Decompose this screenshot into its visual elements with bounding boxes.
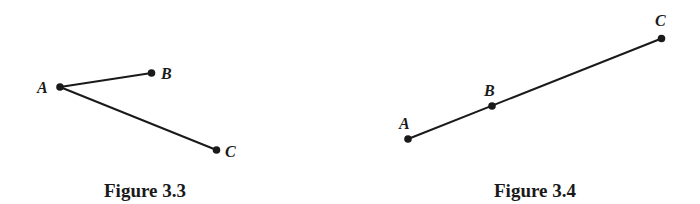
point-C (213, 146, 221, 154)
figure-caption: Figure 3.4 (494, 180, 576, 201)
figure-3-3: A B C Figure 3.3 (36, 65, 236, 201)
label-C: C (225, 143, 236, 160)
label-B: B (160, 65, 172, 82)
point-B (148, 69, 156, 77)
segment-AB (60, 73, 152, 87)
point-A (56, 83, 64, 91)
label-A: A (36, 79, 48, 96)
point-B (488, 102, 496, 110)
figure-caption: Figure 3.3 (104, 180, 186, 201)
segment-AC (60, 87, 217, 150)
figure-3-4: A B C Figure 3.4 (398, 12, 666, 201)
label-C: C (655, 12, 666, 29)
point-A (404, 135, 412, 143)
point-C (658, 35, 666, 43)
label-B: B (483, 82, 495, 99)
segment-AC (408, 39, 662, 140)
label-A: A (398, 115, 410, 132)
geometry-figures: A B C Figure 3.3 A B C Figure 3.4 (0, 0, 700, 204)
